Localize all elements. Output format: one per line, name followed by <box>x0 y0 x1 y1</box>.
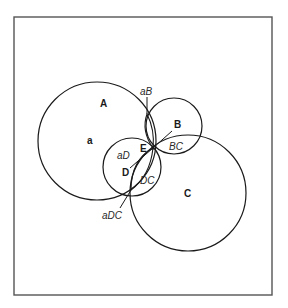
label-C: C <box>184 188 191 199</box>
label-B: B <box>174 119 181 130</box>
label-DC: DC <box>140 175 155 186</box>
point-e <box>151 146 154 149</box>
circle-a <box>38 82 156 200</box>
label-D: D <box>122 167 129 178</box>
label-A: A <box>100 98 107 109</box>
label-BC: BC <box>169 141 184 152</box>
venn-diagram: A a B C D E aB aD BC DC aDC <box>0 0 288 308</box>
label-aDC: aDC <box>102 210 123 221</box>
label-E: E <box>140 143 147 154</box>
label-aD: aD <box>117 150 130 161</box>
diagram-canvas: A a B C D E aB aD BC DC aDC <box>0 0 288 308</box>
label-aB: aB <box>140 86 153 97</box>
label-a: a <box>87 135 93 146</box>
